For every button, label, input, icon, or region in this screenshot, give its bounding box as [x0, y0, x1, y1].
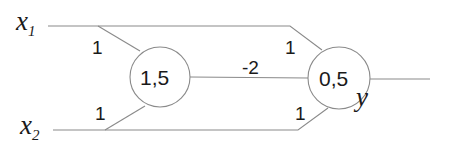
input-x2-label: x2 [20, 112, 39, 143]
output-threshold: 0,5 [319, 68, 348, 89]
output-y-label: y [356, 84, 368, 111]
neural-network-diagram: x1 x2 y 1 1 -2 1 1 1,5 0,5 [0, 0, 450, 144]
weight-x2-output: 1 [295, 104, 306, 123]
hidden-threshold: 1,5 [140, 67, 169, 88]
weight-x1-output: 1 [285, 38, 296, 57]
input-x1-label: x1 [16, 8, 35, 39]
edge-x2-to-hidden [105, 106, 145, 130]
network-edges [0, 0, 450, 144]
weight-x2-hidden: 1 [95, 104, 106, 123]
weight-x1-hidden: 1 [92, 38, 103, 57]
edge-x1-to-hidden [98, 26, 140, 51]
weight-hidden-output: -2 [242, 58, 259, 77]
edge-x1-to-output [48, 26, 322, 50]
